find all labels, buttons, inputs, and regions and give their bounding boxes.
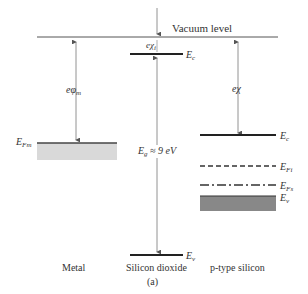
vacuum-level-label: Vacuum level: [172, 22, 232, 34]
si-valence-fill: [200, 196, 276, 211]
oxide-label: Silicon dioxide: [126, 262, 187, 273]
si-label: p-type silicon: [210, 262, 265, 273]
metal-label: Metal: [62, 262, 85, 273]
metal-fill: [37, 143, 117, 160]
si-efi-label: EFi: [280, 161, 292, 174]
oxide-ec-label: Ec: [186, 49, 195, 62]
oxide-gap-label: Eg ≈ 9 eV: [138, 145, 176, 158]
si-affinity-label: eχ: [232, 83, 241, 94]
metal-fermi-label: EFm: [16, 136, 31, 149]
metal-work-function-label: eφm: [66, 84, 81, 97]
oxide-ev-label: Ev: [186, 250, 195, 263]
si-ec-label: Ec: [280, 130, 289, 143]
si-ev-label: Ev: [280, 192, 289, 205]
oxide-affinity-label: eχi: [146, 40, 156, 52]
figure-caption: (a): [147, 276, 158, 287]
